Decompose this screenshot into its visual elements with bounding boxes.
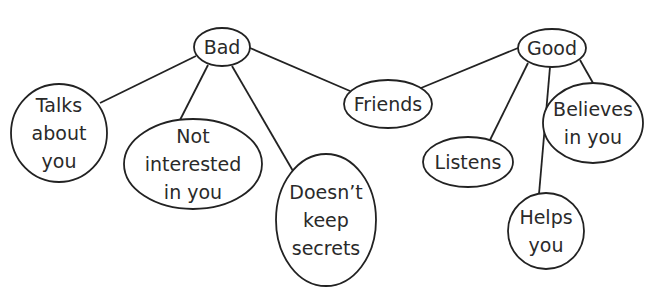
node-friends: Friends [344,80,432,128]
node-talks-about-you: Talksaboutyou [11,84,107,182]
node-label: Listens [435,151,502,173]
node-good: Good [518,29,586,67]
node-label: Friends [354,93,422,115]
node-label: Believes [553,98,633,120]
concept-map-diagram: FriendsBadGoodTalksaboutyouNotinterested… [0,0,664,293]
node-label: interested [145,153,242,175]
node-helps-you: Helpsyou [508,193,584,269]
node-label: Doesn’t [289,181,362,203]
node-label: Bad [204,36,241,58]
node-not-interested-in-you: Notinterestedin you [124,119,262,209]
node-label: about [32,122,87,144]
node-label: secrets [292,237,360,259]
node-label: in you [564,126,622,148]
node-ellipse [508,193,584,269]
diagram-svg: FriendsBadGoodTalksaboutyouNotinterested… [0,0,664,293]
edge-good-to-believes-in-you [580,60,593,83]
node-label: Talks [35,94,82,116]
node-bad: Bad [194,28,250,66]
node-label: you [42,150,77,172]
edge-bad-to-friends [250,48,350,91]
node-doesnt-keep-secrets: Doesn’tkeepsecrets [276,154,376,286]
node-believes-in-you: Believesin you [543,83,643,163]
node-label: Helps [519,206,572,228]
edge-good-to-listens [490,63,528,140]
edge-good-to-friends [421,48,518,88]
node-label: you [529,234,564,256]
edge-bad-to-talks-about-you [100,56,196,103]
node-label: Not [176,125,209,147]
edge-bad-to-not-interested-in-you [180,65,208,120]
nodes-layer: FriendsBadGoodTalksaboutyouNotinterested… [11,28,643,286]
node-ellipse [543,83,643,163]
node-label: Good [527,37,577,59]
node-label: keep [303,209,349,231]
node-listens: Listens [423,137,513,187]
node-label: in you [164,181,222,203]
